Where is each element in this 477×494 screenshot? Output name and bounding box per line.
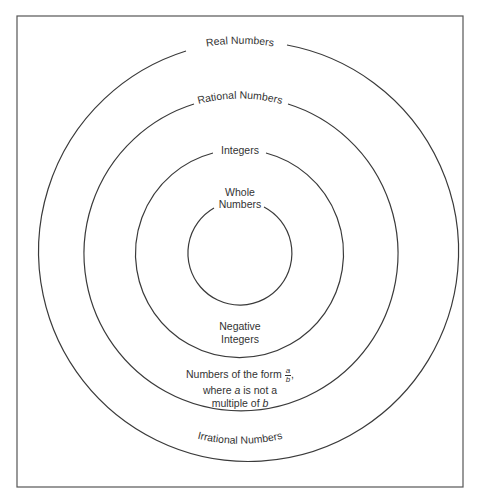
number-sets-diagram: Real Numbers Rational Numbers Irrational… (0, 0, 477, 494)
diagram-frame: Real Numbers Rational Numbers Irrational… (0, 0, 477, 494)
whole-numbers-label-line1: Whole (225, 186, 255, 198)
irrational-numbers-label: Irrational Numbers (197, 429, 284, 446)
non-integer-rationals-label: Numbers of the formab, where a is not a … (140, 367, 340, 410)
integers-label: Integers (221, 144, 259, 156)
negative-integers-label-line2: Integers (221, 333, 259, 345)
whole-numbers-label-line2: Numbers (219, 198, 262, 210)
non-integer-rationals-line1: Numbers of the formab, (140, 367, 340, 384)
non-integer-rationals-line3: multiple of b (140, 397, 340, 410)
non-integer-rationals-line2: where a is not a (140, 384, 340, 397)
real-numbers-label: Real Numbers (205, 34, 275, 49)
negative-integers-label-line1: Negative (219, 320, 261, 332)
whole-numbers-circle (188, 207, 292, 305)
rational-numbers-label: Rational Numbers (196, 88, 284, 106)
